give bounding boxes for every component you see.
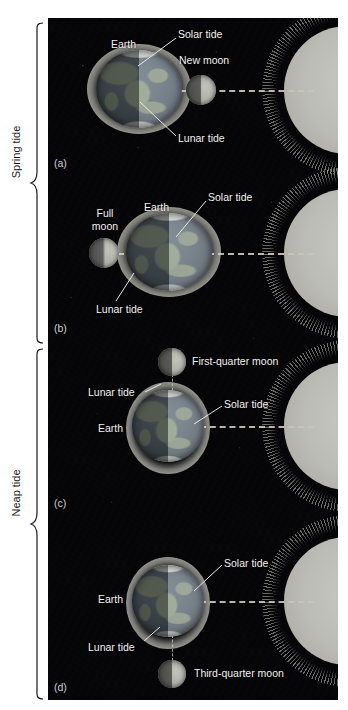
full-moon-body (89, 238, 119, 268)
first-quarter-moon-label: First-quarter moon (192, 355, 278, 367)
new-moon-body (186, 75, 216, 105)
earth-label-d: Earth (98, 593, 123, 605)
full-moon-label-line2: moon (92, 220, 118, 232)
panel-b: Full moon Earth Solar tide Lunar tide (b… (48, 175, 338, 340)
lunar-tide-label-d: Lunar tide (88, 641, 135, 653)
first-quarter-moon-body (158, 348, 186, 376)
solar-tide-label-b: Solar tide (208, 191, 252, 203)
panel-a-letter: (a) (54, 157, 67, 169)
alignment-line-d (200, 601, 314, 603)
solar-tide-label-c: Solar tide (224, 398, 268, 410)
earth-rim-shadow-d (132, 565, 204, 637)
earth-rim-shadow-c (132, 390, 204, 462)
solar-tide-label-d: Solar tide (224, 557, 268, 569)
earth-rim-shadow-a (96, 50, 182, 128)
panel-b-letter: (b) (54, 322, 67, 334)
diagram-panel: Earth New moon Solar tide Lunar tide (a) (48, 18, 338, 700)
moon-rim-shadow-c (158, 348, 186, 376)
earth-label-c: Earth (98, 422, 123, 434)
full-moon-label: Full moon (83, 207, 127, 232)
earth-rim-shadow-b (126, 213, 212, 291)
earth-body-d (132, 565, 204, 637)
new-moon-label: New moon (179, 54, 229, 66)
spring-tide-label: Spring tide (10, 112, 22, 192)
earth-body-b (126, 213, 212, 291)
neap-tide-bracket (30, 348, 44, 700)
bracket-column: Spring tide Neap tide (0, 0, 48, 710)
spring-tide-bracket (30, 22, 44, 344)
panel-d: Solar tide Earth Lunar tide Third-quarte… (48, 515, 338, 700)
panel-a: Earth New moon Solar tide Lunar tide (a) (48, 18, 338, 175)
full-moon-label-line1: Full (97, 207, 114, 219)
earth-label-b: Earth (144, 201, 169, 213)
neap-tide-label: Neap tide (10, 456, 22, 530)
lunar-tide-label-a: Lunar tide (178, 132, 225, 144)
earth-body-c (132, 390, 204, 462)
third-quarter-moon-body (158, 660, 186, 688)
earth-label-a: Earth (111, 38, 136, 50)
panel-d-letter: (d) (54, 681, 67, 693)
moon-rim-shadow-b (89, 238, 119, 268)
moon-rim-shadow-d (158, 660, 186, 688)
moon-rim-shadow-a (186, 75, 216, 105)
lunar-tide-label-b: Lunar tide (96, 303, 143, 315)
panel-c-letter: (c) (54, 497, 66, 509)
lunar-tide-label-c: Lunar tide (88, 386, 135, 398)
panel-c: First-quarter moon Lunar tide Solar tide… (48, 340, 338, 515)
earth-body-a (96, 50, 182, 128)
alignment-line-c (200, 426, 314, 428)
third-quarter-moon-label: Third-quarter moon (194, 667, 284, 679)
solar-tide-label-a: Solar tide (178, 28, 222, 40)
